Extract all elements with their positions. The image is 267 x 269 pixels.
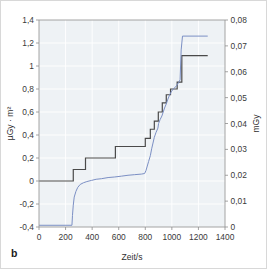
ytick-label-right: 0,08 — [231, 15, 248, 25]
ytick-label-right: 0,06 — [231, 67, 248, 77]
ytick-label-left: 0,6 — [22, 107, 34, 117]
figure-panel: -0,4-0,200,20,40,60,811,21,400,010,020,0… — [0, 0, 267, 269]
ytick-label-left: -0,2 — [20, 199, 35, 209]
ytick-label-left: -0,4 — [20, 222, 35, 232]
xtick-label: 0 — [37, 232, 42, 242]
xtick-label: 800 — [138, 232, 152, 242]
xtick-label: 400 — [85, 232, 99, 242]
ytick-label-left: 0,4 — [22, 130, 34, 140]
xtick-label: 200 — [59, 232, 73, 242]
ytick-label-left: 0,8 — [22, 84, 34, 94]
ytick-label-left: 1,2 — [22, 38, 34, 48]
ytick-label-right: 0,01 — [231, 196, 248, 206]
ytick-label-left: 1,4 — [22, 15, 34, 25]
ytick-label-left: 0,2 — [22, 153, 34, 163]
xtick-label: 1200 — [189, 232, 208, 242]
x-axis-title: Zeit/s — [121, 252, 142, 262]
ytick-label-right: 0 — [231, 222, 236, 232]
ytick-label-right: 0,04 — [231, 119, 248, 129]
xtick-label: 600 — [112, 232, 126, 242]
ytick-label-right: 0,07 — [231, 41, 248, 51]
y-axis-title-left: µGy · m² — [5, 107, 15, 141]
ytick-label-right: 0,03 — [231, 144, 248, 154]
ytick-label-right: 0,05 — [231, 93, 248, 103]
panel-label: b — [11, 247, 17, 259]
xtick-label: 1400 — [216, 232, 235, 242]
ytick-label-left: 1 — [29, 61, 34, 71]
chart-canvas: -0,4-0,200,20,40,60,811,21,400,010,020,0… — [1, 1, 267, 269]
ytick-label-left: 0 — [29, 176, 34, 186]
y-axis-title-right: mGy — [251, 114, 261, 133]
plot-background — [39, 20, 225, 227]
xtick-label: 1000 — [163, 232, 182, 242]
ytick-label-right: 0,02 — [231, 170, 248, 180]
